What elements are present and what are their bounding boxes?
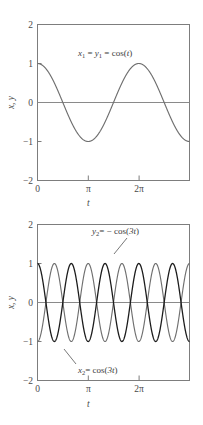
x-axis-title-top: t	[87, 198, 90, 208]
chart-svg-bottom: 2 1 0 −1 −2 0 π 2π t x, y	[0, 212, 203, 425]
annot-rhs-y2: = − cos(	[99, 226, 129, 236]
y-ticklabel-0-top: 0	[28, 98, 33, 108]
y-ticklabel-neg1-bottom: −1	[23, 337, 33, 347]
curve-label-x1y1: x1 = y1 = cos(t)	[77, 48, 132, 59]
y-ticklabel-2-bottom: 2	[28, 220, 33, 230]
leader-line-y2	[114, 238, 127, 254]
chart-panel-top: 2 1 0 −1 −2 0 π 2π t x, y x1 = y1 = cos(…	[0, 0, 203, 212]
annot-rhs-x2: = cos(	[85, 365, 107, 375]
y-axis-title-top: x, y	[6, 95, 16, 110]
x-ticklabel-2pi-bottom: 2π	[134, 384, 144, 394]
chart-svg-top: 2 1 0 −1 −2 0 π 2π t x, y x1 = y1 = cos(…	[0, 0, 203, 212]
x-axis-title-bottom: t	[87, 399, 90, 409]
leader-line-x2	[64, 349, 76, 364]
y-ticklabel-1-top: 1	[28, 59, 33, 69]
x-ticklabel-0-top: 0	[35, 184, 40, 194]
y-ticklabel-neg2-bottom: −2	[23, 376, 33, 386]
annot-paren-close-x2: )	[115, 365, 118, 375]
annot-fn-cos: cos(	[112, 48, 127, 58]
curve-label-y2: y2= − cos(3t)	[91, 226, 139, 237]
chart-panel-bottom: 2 1 0 −1 −2 0 π 2π t x, y	[0, 212, 203, 425]
curve-label-x2: x2= cos(3t)	[77, 365, 118, 376]
annot-paren-close: )	[129, 48, 132, 58]
y-ticklabel-2-top: 2	[28, 20, 33, 30]
y-ticklabel-neg1-top: −1	[23, 137, 33, 147]
x-ticklabel-2pi-top: 2π	[134, 184, 144, 194]
y-ticklabel-neg2-top: −2	[23, 176, 33, 186]
annot-paren-close-y2: )	[136, 226, 139, 236]
y-axis-title-bottom: x, y	[6, 295, 16, 310]
y-ticklabel-0-bottom: 0	[28, 298, 33, 308]
x-ticklabel-pi-top: π	[86, 184, 91, 194]
y-ticklabel-1-bottom: 1	[28, 259, 33, 269]
x-ticklabel-pi-bottom: π	[86, 384, 91, 394]
figure-container: 2 1 0 −1 −2 0 π 2π t x, y x1 = y1 = cos(…	[0, 0, 203, 425]
x-ticklabel-0-bottom: 0	[35, 384, 40, 394]
